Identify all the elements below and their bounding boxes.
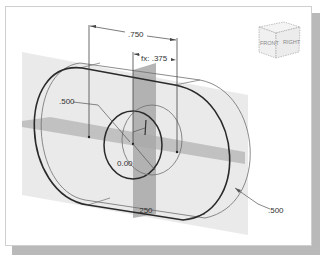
dim-375: fx: .375 bbox=[141, 54, 168, 63]
view-cube[interactable]: FRONT RIGHT bbox=[259, 22, 301, 58]
dim-250: .250 bbox=[137, 206, 153, 215]
work-plane-vertical bbox=[133, 63, 156, 218]
dim-500-right: .500 bbox=[268, 206, 284, 215]
view-cube-right-label: RIGHT bbox=[283, 39, 301, 45]
center-point-left bbox=[88, 136, 90, 138]
view-cube-front-label: FRONT bbox=[260, 40, 280, 46]
dim-center: 0.00 bbox=[117, 159, 133, 168]
arrow-icon bbox=[134, 53, 139, 56]
cad-sketch: .750 fx: .375 .500 0.00 .250 .500 FRONT … bbox=[0, 0, 325, 265]
dim-500-left: .500 bbox=[59, 97, 75, 106]
dim-750: .750 bbox=[128, 30, 144, 39]
arrow-icon bbox=[170, 38, 176, 41]
arrow-icon bbox=[171, 58, 176, 61]
center-point-right bbox=[176, 151, 178, 153]
